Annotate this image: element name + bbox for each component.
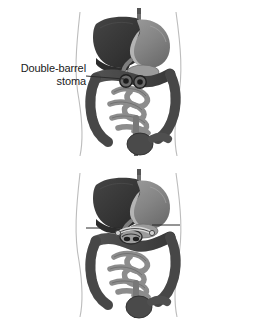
stoma-illustration-figure: Double-barrel stoma bbox=[0, 0, 270, 322]
double-barrel-stoma-panel: Double-barrel stoma bbox=[0, 0, 270, 161]
label-double-barrel-stoma: Double-barrel stoma bbox=[4, 62, 86, 88]
loop-stoma-panel: Loop stoma Supporting device bbox=[0, 161, 270, 322]
loop-stoma-anatomy-drawing bbox=[0, 161, 270, 322]
